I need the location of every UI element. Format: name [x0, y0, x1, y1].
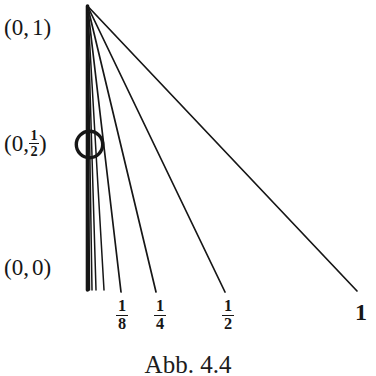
- label-0-half-denominator: 2: [29, 144, 38, 159]
- segment-to-1: [88, 6, 358, 291]
- label-0-half-fraction: 12: [29, 128, 38, 158]
- label-0-0-y: 0: [32, 256, 44, 279]
- label-0-half-x: 0: [12, 132, 24, 155]
- tick-one-quarter-fraction: 14: [154, 298, 166, 332]
- tick-one-half-denominator: 2: [222, 316, 234, 333]
- label-0-0-open: (: [4, 256, 12, 279]
- label-0-1-y: 1: [32, 16, 44, 39]
- tick-one-half-fraction: 12: [222, 298, 234, 332]
- label-0-half-numerator: 1: [29, 128, 38, 144]
- segment-to-1-2: [88, 6, 226, 292]
- tick-label-one: 1: [355, 300, 367, 324]
- label-0-0-comma: ,: [23, 256, 29, 279]
- label-0-half-open: (: [4, 132, 12, 155]
- tick-label-one-eighth: 18: [106, 298, 138, 332]
- label-0-half-close: ): [39, 132, 47, 155]
- tick-one-eighth-denominator: 8: [116, 316, 128, 333]
- label-point-0-half: (0,12): [4, 128, 47, 158]
- label-0-0-x: 0: [12, 256, 24, 279]
- label-0-half-comma: ,: [23, 132, 29, 155]
- figure-caption: Abb. 4.4: [0, 352, 376, 376]
- fan-lines: [88, 6, 358, 292]
- tick-label-one-half: 12: [212, 298, 244, 332]
- label-0-1-x: 0: [12, 16, 24, 39]
- label-point-0-0: (0,0): [4, 256, 51, 279]
- tick-label-one-quarter: 14: [144, 298, 176, 332]
- figure-abb-4-4: (0,1) (0,12) (0,0) 18 14 12 1 Abb. 4.4: [0, 0, 376, 376]
- tick-one-eighth-fraction: 18: [116, 298, 128, 332]
- label-0-1-close: ): [43, 16, 51, 39]
- label-0-1-open: (: [4, 16, 12, 39]
- label-point-0-1: (0,1): [4, 16, 51, 39]
- figure-canvas: [0, 0, 376, 376]
- tick-one-quarter-denominator: 4: [154, 316, 166, 333]
- segment-to-1-4: [88, 6, 157, 292]
- label-0-1-comma: ,: [23, 16, 29, 39]
- label-0-0-close: ): [43, 256, 51, 279]
